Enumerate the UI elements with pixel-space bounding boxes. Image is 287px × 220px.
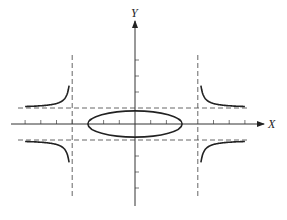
hyperbola-branch-lower-right: [201, 142, 245, 163]
x-axis-label: X: [267, 117, 276, 131]
hyperbola-branch-lower-left: [25, 142, 69, 163]
hyperbola-branch-upper-left: [25, 86, 69, 107]
curve-diagram: X Y: [0, 0, 287, 220]
asymptote-lines: [18, 55, 250, 196]
hyperbola-branch-upper-right: [201, 86, 245, 107]
y-axis-label: Y: [131, 6, 139, 20]
